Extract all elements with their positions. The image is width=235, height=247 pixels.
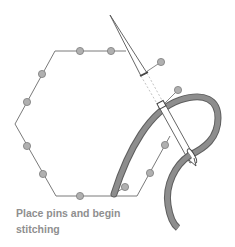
caption-line-2: stitching	[16, 221, 156, 237]
pin-icon	[23, 142, 30, 149]
pin-icon	[38, 70, 45, 77]
caption-line-1: Place pins and begin	[16, 205, 156, 221]
caption: Place pins and begin stitching	[16, 205, 156, 237]
pin-icon	[76, 192, 83, 199]
pin-icon	[174, 86, 181, 93]
pin-icon	[157, 58, 164, 65]
pin-icon	[76, 47, 83, 54]
needle-icon	[110, 15, 198, 166]
pin-icon	[23, 98, 30, 105]
pin-icon	[39, 170, 46, 177]
pin-icon	[146, 169, 153, 176]
pin-icon	[121, 183, 128, 190]
pin-icon	[161, 141, 168, 148]
pin-icon	[107, 47, 114, 54]
